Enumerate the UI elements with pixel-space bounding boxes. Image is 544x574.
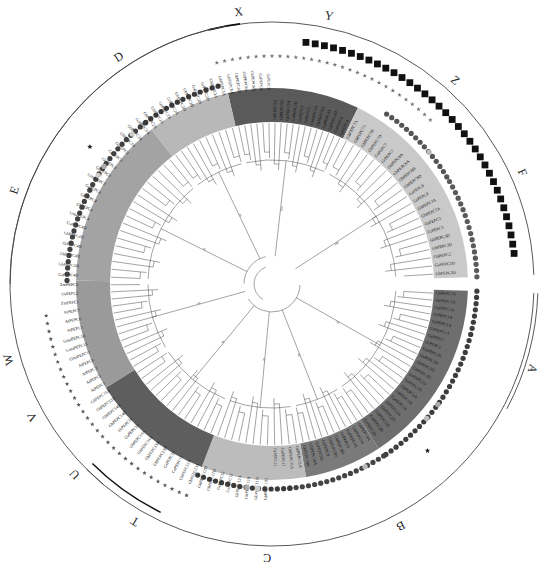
terminal-branch (269, 123, 270, 158)
terminal-branch (342, 396, 357, 421)
star-marker (163, 483, 167, 487)
circle-marker (215, 84, 220, 89)
root-arc (244, 257, 266, 284)
circle-marker (468, 332, 473, 337)
star-marker (177, 490, 181, 494)
terminal-branch (356, 159, 374, 181)
square-marker (429, 96, 436, 103)
square-marker (497, 196, 504, 203)
square-marker (391, 69, 398, 76)
star-marker (87, 144, 92, 149)
leaf-label: OsPEPC2 (61, 290, 78, 296)
sub-arc (346, 390, 351, 393)
circle-marker (262, 486, 267, 491)
clade-label-a: A (525, 362, 541, 375)
terminal-branch (164, 165, 183, 186)
star-marker (428, 118, 432, 122)
star-marker (117, 451, 121, 455)
star-marker (49, 337, 53, 341)
terminal-branch (191, 382, 215, 423)
sub-arc (252, 402, 257, 403)
sub-arc (239, 412, 245, 413)
sub-arc (357, 199, 361, 203)
star-marker (363, 73, 367, 77)
terminal-branch (390, 258, 430, 265)
terminal-branch (289, 124, 294, 159)
terminal-branch (178, 387, 198, 415)
circle-marker (440, 395, 445, 400)
sub-arc (390, 264, 391, 270)
circle-marker (129, 131, 134, 136)
circle-marker (447, 384, 452, 389)
circle-marker (381, 453, 386, 458)
circle-marker (159, 109, 164, 114)
circle-marker (77, 210, 82, 215)
terminal-branch (123, 223, 167, 241)
star-marker (391, 88, 395, 92)
star-marker (65, 382, 69, 386)
sub-arc (159, 239, 161, 245)
terminal-branch (185, 395, 201, 419)
circle-marker (473, 307, 478, 312)
tree-branches: 10010099989796959492 (111, 123, 433, 445)
terminal-branch (112, 295, 153, 299)
sub-arc (209, 179, 214, 182)
star-marker (384, 84, 388, 88)
terminal-branch (307, 129, 317, 163)
star-marker (294, 55, 298, 59)
circle-marker (164, 106, 169, 111)
sub-arc (144, 246, 146, 252)
circle-marker (474, 268, 479, 273)
terminal-branch (323, 136, 334, 163)
star-marker (45, 321, 49, 325)
circle-marker (470, 326, 475, 331)
terminal-branch (151, 363, 182, 390)
terminal-branch (323, 406, 334, 433)
circle-marker (403, 437, 408, 442)
sub-arc (338, 184, 343, 188)
circle-marker (465, 344, 470, 349)
sub-arc (162, 331, 164, 336)
square-marker (339, 47, 346, 54)
terminal-branch (167, 370, 198, 406)
sub-arc (178, 359, 182, 363)
square-marker (357, 53, 364, 60)
circle-marker (472, 313, 477, 318)
star-marker (309, 57, 313, 61)
circle-marker (460, 356, 465, 361)
square-marker (494, 187, 501, 194)
star-marker (76, 402, 80, 406)
circle-marker (90, 182, 95, 187)
circle-marker (444, 389, 449, 394)
terminal-branch (285, 409, 289, 444)
square-marker (312, 40, 319, 47)
circle-marker (463, 350, 468, 355)
terminal-branch (292, 414, 296, 443)
terminal-branch (385, 339, 417, 354)
circle-marker (422, 144, 427, 149)
sub-arc (284, 153, 289, 154)
star-marker (278, 54, 282, 58)
sub-arc (364, 374, 368, 378)
terminal-branch (134, 351, 159, 366)
terminal-branch (316, 402, 328, 435)
terminal-branch (113, 301, 148, 306)
sub-arc (256, 165, 261, 166)
terminal-branch (358, 358, 394, 389)
circle-marker (399, 123, 404, 128)
sub-arc (363, 358, 366, 362)
square-marker (500, 204, 507, 211)
sub-arc (337, 396, 342, 399)
circle-marker (417, 424, 422, 429)
circle-marker (67, 247, 72, 252)
star-marker (340, 65, 344, 69)
square-marker (490, 178, 497, 185)
terminal-branch (212, 134, 227, 172)
circle-marker (293, 485, 298, 490)
circle-marker (435, 402, 440, 407)
terminal-branch (382, 356, 406, 372)
terminal-branch (384, 305, 430, 314)
clade-arc-b (249, 511, 403, 546)
star-marker (149, 475, 153, 479)
star-marker (410, 102, 414, 106)
